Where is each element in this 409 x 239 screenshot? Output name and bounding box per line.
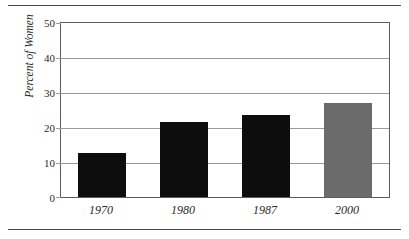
- y-tick-label-0: 0: [15, 193, 55, 204]
- bar-series: [61, 23, 389, 197]
- y-tick-label-50: 50: [15, 18, 55, 29]
- x-tick-label-1987: 1987: [224, 204, 306, 216]
- bar-1987: [242, 115, 290, 197]
- x-tick-label-1980: 1980: [142, 204, 224, 216]
- top-horizontal-rule: [8, 5, 401, 6]
- y-tick-label-40: 40: [15, 53, 55, 64]
- bar-1970: [78, 153, 126, 197]
- bottom-horizontal-rule: [8, 229, 401, 230]
- bar-2000: [324, 103, 372, 197]
- plot-area: [60, 22, 390, 198]
- bar-1980: [160, 122, 208, 197]
- x-tick-label-2000: 2000: [306, 204, 388, 216]
- chart-figure: Percent of Women 50 40 30 20 10 0 1970 1…: [0, 0, 409, 239]
- y-tick-label-30: 30: [15, 88, 55, 99]
- y-tick-label-10: 10: [15, 158, 55, 169]
- tick-mark-0: [56, 197, 61, 198]
- gridline-0: [61, 197, 389, 198]
- x-tick-label-1970: 1970: [60, 204, 142, 216]
- y-tick-label-20: 20: [15, 123, 55, 134]
